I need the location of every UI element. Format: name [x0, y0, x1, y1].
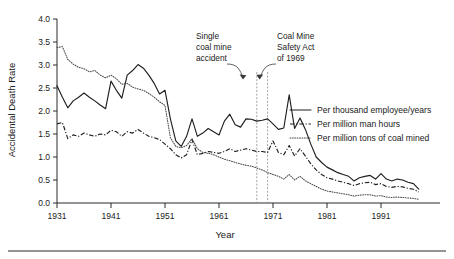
x-tick-label: 1941 — [102, 211, 121, 221]
y-tick-label: 1.0 — [38, 152, 50, 162]
legend-label: Per million man hours — [317, 119, 400, 129]
y-tick-label: 1.5 — [38, 129, 50, 139]
legend-label: Per million tons of coal mined — [317, 133, 429, 143]
accidental-death-rate-chart: Accidental Death Rate 4.0 3.5 3.0 2.5 2.… — [0, 0, 454, 259]
x-axis-title: Year — [215, 229, 234, 240]
y-tick-label: 2.5 — [38, 83, 50, 93]
y-axis-title: Accidental Death Rate — [6, 63, 17, 158]
annotation-line: accident — [196, 53, 228, 63]
figure-container: Accidental Death Rate 4.0 3.5 3.0 2.5 2.… — [0, 0, 454, 259]
annotation-line: coal mine — [196, 42, 232, 52]
annotation-arrowhead — [256, 74, 263, 79]
x-tick-label: 1951 — [156, 211, 175, 221]
y-tick-label: 0.5 — [38, 175, 50, 185]
x-tick-label: 1971 — [264, 211, 283, 221]
annotation-arrowhead — [240, 75, 247, 80]
y-tick-marks — [53, 19, 57, 203]
x-tick-label: 1991 — [372, 211, 391, 221]
vertical-event-markers — [257, 72, 268, 203]
x-tick-label: 1981 — [318, 211, 337, 221]
annotation-line: Safety Act — [277, 42, 315, 52]
x-tick-label: 1961 — [210, 211, 229, 221]
y-tick-label: 3.0 — [38, 60, 50, 70]
y-tick-label: 0.0 — [38, 198, 50, 208]
y-tick-labels: 4.0 3.5 3.0 2.5 2.0 1.5 1.0 0.5 0.0 — [38, 14, 50, 208]
annotation-line: Coal Mine — [277, 31, 315, 41]
annotation-line: of 1969 — [277, 53, 305, 63]
x-tick-labels: 1931 1941 1951 1961 1971 1981 1991 — [48, 211, 391, 221]
annotation-coal-mine-safety-act: Coal Mine Safety Act of 1969 — [256, 31, 315, 80]
annotation-line: Single — [196, 31, 219, 41]
y-tick-label: 2.0 — [38, 106, 50, 116]
legend-label: Per thousand employee/years — [317, 105, 431, 115]
y-tick-label: 3.5 — [38, 37, 50, 47]
x-tick-label: 1931 — [48, 211, 67, 221]
x-tick-marks — [57, 203, 381, 208]
annotation-single-coal-mine-accident: Single coal mine accident — [196, 31, 246, 80]
y-tick-label: 4.0 — [38, 14, 50, 24]
legend: Per thousand employee/years Per million … — [290, 105, 431, 143]
